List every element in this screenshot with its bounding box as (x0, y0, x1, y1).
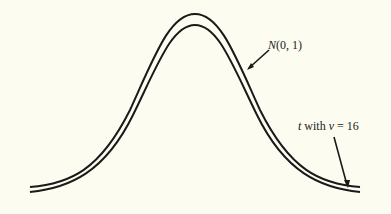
normal-label: N(0, 1) (268, 38, 302, 53)
t-label: t with v = 16 (298, 119, 359, 134)
normal-label-params: (0, 1) (276, 38, 302, 52)
t-curve (30, 25, 360, 192)
normal-curve (30, 14, 360, 187)
t-label-value: = 16 (334, 119, 359, 133)
t-pointer (334, 137, 347, 185)
normal-label-n: N (268, 38, 276, 52)
density-plot (0, 0, 391, 214)
t-label-with: with (301, 119, 328, 133)
